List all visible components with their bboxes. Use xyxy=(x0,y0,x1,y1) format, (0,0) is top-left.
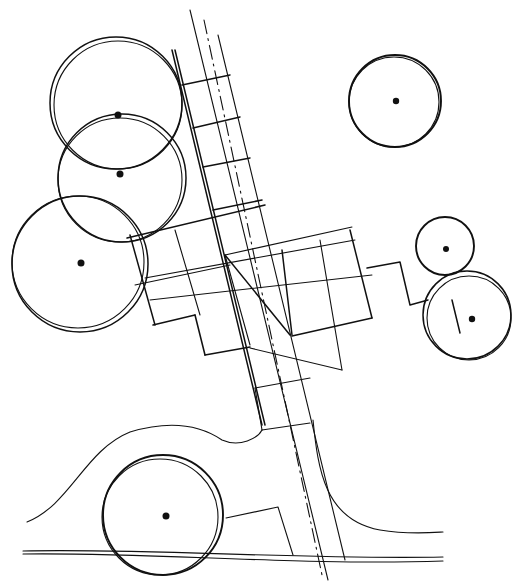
tree-canopy-icon xyxy=(50,37,182,169)
connector-paths xyxy=(367,262,460,333)
tree-canopy-icon xyxy=(349,55,441,147)
tree-canopy-icon xyxy=(12,196,148,332)
road-edge xyxy=(23,551,443,563)
tree-canopy-icon xyxy=(58,114,186,242)
tree-canopy-icon xyxy=(423,271,511,360)
tree-canopy-icon xyxy=(102,455,223,575)
curved-path xyxy=(27,420,443,555)
tree-canopy-icon xyxy=(416,217,474,275)
site-plan-sketch xyxy=(0,0,512,585)
